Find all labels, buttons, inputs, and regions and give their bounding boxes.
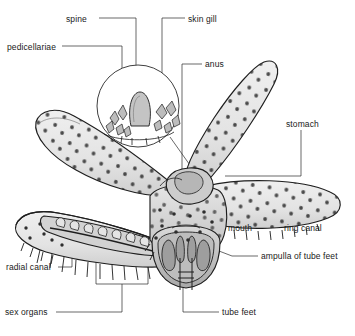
label-spine: spine	[66, 14, 87, 24]
arm-upper-right	[185, 61, 277, 186]
label-skin-gill: skin gill	[188, 14, 217, 24]
label-radial-canal: radial canal	[6, 262, 51, 272]
disc-cutaway-bowl	[152, 225, 220, 290]
leader-skin-gill	[162, 18, 185, 82]
label-pedicellariae: pedicellariae	[7, 42, 56, 52]
inset-spine	[130, 92, 151, 126]
label-mouth: mouth	[228, 223, 252, 233]
leader-sex-organs	[56, 284, 122, 312]
label-anus: anus	[205, 59, 224, 69]
label-ampulla-of-tube-feet: ampulla of tube feet	[261, 251, 338, 261]
leader-ampulla	[219, 251, 258, 256]
starfish-anatomy-figure: spine skin gill pedicellariae anus stoma…	[0, 0, 355, 336]
label-tube-feet: tube feet	[222, 307, 256, 317]
magnified-surface-inset	[97, 65, 180, 147]
label-sex-organs: sex organs	[5, 307, 48, 317]
label-stomach: stomach	[286, 119, 319, 129]
label-ring-canal: ring canal	[284, 223, 322, 233]
